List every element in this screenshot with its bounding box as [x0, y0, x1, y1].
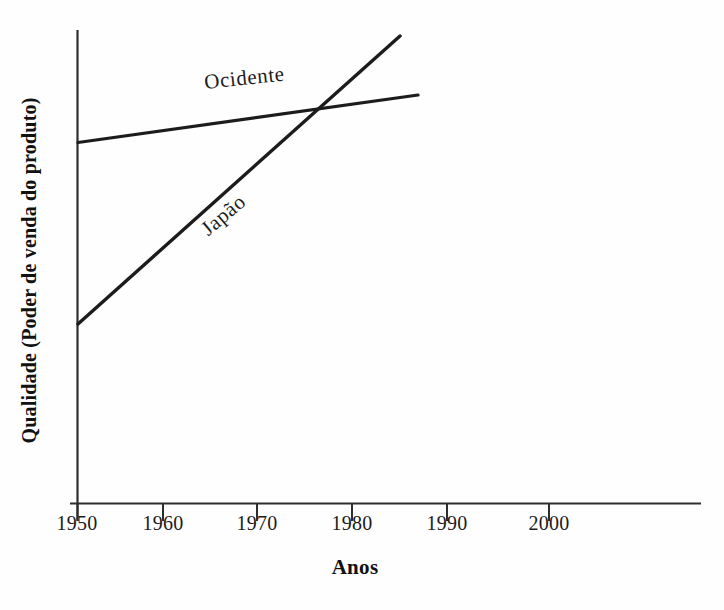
chart-page: 1950 1960 1970 1980 1990 2000 Anos Quali… [0, 0, 724, 610]
y-axis-title: Qualidade (Poder de venda do produto) [18, 97, 41, 443]
series-line-ocidente [78, 95, 418, 143]
x-tick-label-1990: 1990 [427, 512, 468, 535]
x-tick-label-1960: 1960 [143, 512, 184, 535]
x-tick-label-1950: 1950 [57, 512, 98, 535]
x-tick-label-1970: 1970 [237, 512, 278, 535]
y-axis-title-wrapper: Qualidade (Poder de venda do produto) [14, 55, 44, 485]
x-axis-title: Anos [332, 555, 379, 580]
line-chart-figure: 1950 1960 1970 1980 1990 2000 Anos Quali… [0, 0, 724, 610]
x-tick-label-1980: 1980 [332, 512, 373, 535]
x-tick-label-2000: 2000 [529, 512, 570, 535]
